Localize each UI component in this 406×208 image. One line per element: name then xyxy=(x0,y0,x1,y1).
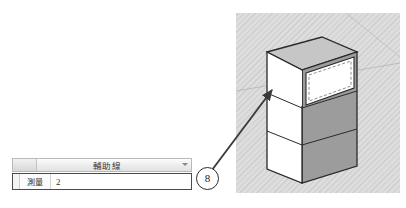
entity-info-panel[interactable]: 輔助線 測量 2 xyxy=(12,158,192,190)
row-gutter xyxy=(13,174,20,189)
measurement-input[interactable]: 2 xyxy=(51,174,191,189)
panel-header[interactable]: 輔助線 xyxy=(12,158,192,172)
chevron-down-icon[interactable] xyxy=(182,163,188,166)
3d-model-viewport[interactable] xyxy=(236,13,400,193)
callout-badge-8[interactable]: 8 xyxy=(196,167,219,190)
measurement-row[interactable]: 測量 2 xyxy=(12,173,192,190)
measurement-label: 測量 xyxy=(20,174,51,189)
panel-header-gutter xyxy=(13,159,37,171)
model-canvas xyxy=(236,13,400,193)
panel-title: 輔助線 xyxy=(37,159,191,171)
